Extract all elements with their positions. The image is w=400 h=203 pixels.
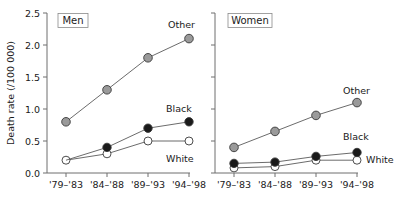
x-tick-label: '89–'93 — [299, 179, 333, 190]
women-series-black: Black — [230, 131, 369, 168]
y-tick-label: 1.5 — [25, 72, 40, 83]
men-series-white: White — [62, 137, 194, 164]
men-x-tickmarks — [66, 173, 189, 177]
men-series-black: Black — [66, 103, 193, 160]
x-tick-label: '89–'93 — [131, 179, 165, 190]
y-tick-label: 0.0 — [25, 168, 40, 179]
y-tick-label: 2.0 — [25, 40, 40, 51]
y-tick-label: 0.5 — [25, 136, 40, 147]
women-y-tickmarks — [211, 13, 215, 173]
x-tick-label: '84–'88 — [90, 179, 124, 190]
men-x-tick-labels: '79–'83 '84–'88 '89–'93 '94–'98 — [49, 179, 206, 190]
x-tick-label: '84–'88 — [258, 179, 292, 190]
women-x-tickmarks — [234, 173, 357, 177]
men-y-tickmarks — [43, 13, 47, 173]
women-series-label-other: Other — [343, 85, 370, 96]
death-rate-line-chart: Death rate (/100 000) 0.0 0.5 1.0 1.5 2.… — [0, 0, 400, 203]
women-series-label-white: White — [366, 154, 394, 165]
panel-women: '79–'83 '84–'88 '89–'93 '94–'98 Women Ot… — [211, 13, 394, 190]
men-panel-label-text: Men — [62, 15, 83, 26]
panel-men: '79–'83 '84–'88 '89–'93 '94–'98 Men Othe… — [43, 13, 206, 190]
x-tick-label: '79–'83 — [217, 179, 251, 190]
women-panel-label-text: Women — [231, 15, 269, 26]
y-axis-title: Death rate (/100 000) — [5, 41, 16, 145]
men-panel-label: Men — [58, 14, 88, 28]
women-panel-label: Women — [228, 14, 272, 28]
y-tick-labels: 0.0 0.5 1.0 1.5 2.0 2.5 — [25, 8, 40, 179]
y-tick-label: 2.5 — [25, 8, 40, 19]
women-x-tick-labels: '79–'83 '84–'88 '89–'93 '94–'98 — [217, 179, 374, 190]
x-tick-label: '94–'98 — [172, 179, 206, 190]
x-tick-label: '94–'98 — [340, 179, 374, 190]
women-series-label-black: Black — [343, 131, 369, 142]
y-tick-label: 1.0 — [25, 104, 40, 115]
men-series-label-other: Other — [168, 19, 195, 30]
men-series-label-black: Black — [166, 103, 192, 114]
men-series-label-white: White — [166, 153, 194, 164]
x-tick-label: '79–'83 — [49, 179, 83, 190]
